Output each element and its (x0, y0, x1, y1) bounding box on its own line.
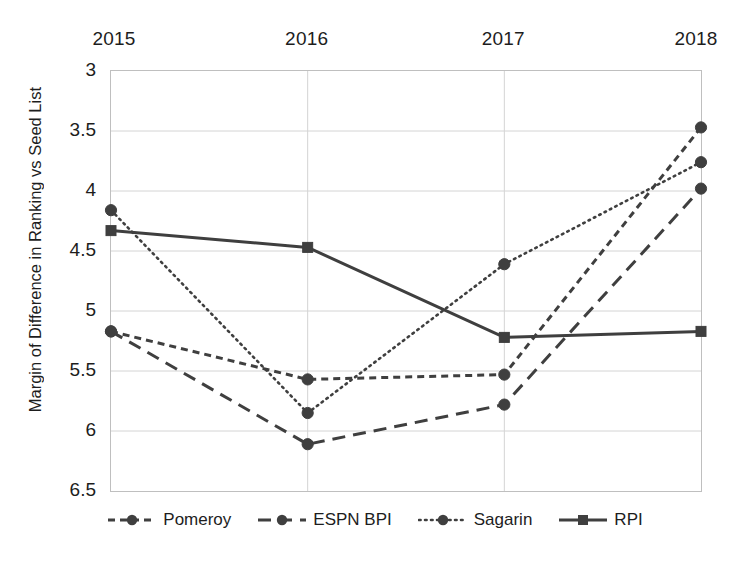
series-line (111, 127, 701, 379)
line-chart: 2015201620172018 Margin of Difference in… (0, 0, 750, 564)
legend-label: RPI (614, 510, 642, 530)
y-axis-tick-5.5: 5.5 (70, 359, 96, 381)
plot-area (110, 70, 702, 492)
gridlines (111, 71, 701, 491)
legend-swatch-dotted (418, 512, 468, 528)
y-axis-tick-3.5: 3.5 (70, 119, 96, 141)
data-point-marker (499, 369, 510, 380)
data-point-marker (695, 157, 706, 168)
chart-legend: PomeroyESPN BPISagarinRPI (0, 500, 750, 540)
data-point-marker (696, 326, 706, 336)
data-point-marker (105, 205, 116, 216)
data-point-marker (695, 183, 706, 194)
y-axis-tick-labels: 33.544.555.566.5 (52, 0, 104, 564)
series-line (111, 189, 701, 445)
series-line (111, 162, 701, 413)
data-point-marker (105, 326, 116, 337)
plot-canvas (110, 70, 702, 492)
data-point-marker (302, 439, 313, 450)
y-axis-tick-3: 3 (85, 59, 96, 81)
series-pomeroy (105, 122, 706, 385)
legend-label: ESPN BPI (313, 510, 391, 530)
legend-item-espn-bpi[interactable]: ESPN BPI (257, 510, 391, 530)
legend-marker (127, 515, 137, 525)
y-axis-tick-6.5: 6.5 (70, 479, 96, 501)
x-axis-tick-2017: 2017 (482, 28, 525, 50)
data-point-marker (695, 122, 706, 133)
data-point-marker (106, 226, 116, 236)
data-point-marker (499, 399, 510, 410)
x-axis-tick-2018: 2018 (674, 28, 717, 50)
legend-item-rpi[interactable]: RPI (558, 510, 642, 530)
x-axis-tick-labels: 2015201620172018 (0, 28, 750, 54)
x-axis-tick-2016: 2016 (285, 28, 328, 50)
data-point-marker (302, 374, 313, 385)
legend-swatch-short-dash (107, 512, 157, 528)
data-point-marker (499, 332, 509, 342)
data-point-marker (303, 242, 313, 252)
legend-item-sagarin[interactable]: Sagarin (418, 510, 533, 530)
legend-marker (277, 515, 287, 525)
data-point-marker (302, 407, 313, 418)
series-sagarin (105, 157, 706, 419)
y-axis-tick-4.5: 4.5 (70, 239, 96, 261)
legend-item-pomeroy[interactable]: Pomeroy (107, 510, 231, 530)
y-axis-title: Margin of Difference in Ranking vs Seed … (18, 0, 52, 500)
y-axis-tick-4: 4 (85, 179, 96, 201)
y-axis-title-text: Margin of Difference in Ranking vs Seed … (26, 87, 45, 412)
legend-swatch-solid (558, 512, 608, 528)
legend-swatch-long-dash (257, 512, 307, 528)
legend-label: Pomeroy (163, 510, 231, 530)
y-axis-tick-5: 5 (85, 299, 96, 321)
legend-marker (578, 515, 588, 525)
data-point-marker (499, 259, 510, 270)
legend-marker (438, 515, 448, 525)
series-espn-bpi (105, 183, 706, 450)
legend-label: Sagarin (474, 510, 533, 530)
y-axis-tick-6: 6 (85, 419, 96, 441)
